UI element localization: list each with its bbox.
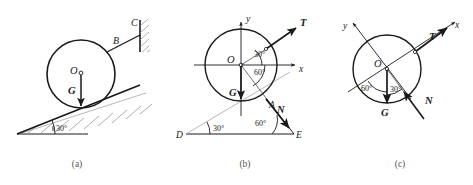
vertex-label-d-b: D: [175, 130, 183, 140]
incline-guide-line-a: [22, 93, 146, 133]
normal-label-n-c: N: [424, 95, 433, 106]
axis-label-y-c: y: [342, 21, 348, 31]
caption-a: (a): [72, 159, 83, 170]
tension-vector-b: [266, 28, 296, 49]
cord-label-b-a: B: [113, 35, 119, 46]
tension-label-t-c: T: [429, 31, 436, 42]
axis-label-x-c: x: [454, 20, 460, 30]
panel-c: O y x T G N 60° 30° (c): [342, 20, 460, 170]
angle-arc-30-a: [52, 120, 55, 134]
angle-label-60-c: 60°: [361, 84, 372, 93]
panel-a: O G B C 30° (a): [17, 17, 152, 170]
center-label-o-a: O: [70, 65, 78, 76]
caption-c: (c): [395, 159, 406, 170]
wall-hatching-a: [140, 19, 150, 52]
cord-a: [107, 35, 140, 52]
contact-point-label-a-b: A: [268, 100, 275, 110]
panel-b: O y x T G N A D E 30° 60° 30° 60° (b): [175, 14, 307, 170]
weight-label-g-a: G: [68, 85, 76, 96]
physics-figure: O G B C 30° (a): [0, 0, 473, 185]
incline-hatching-a: [28, 104, 152, 133]
normal-vector-c: [404, 92, 424, 119]
axis-label-y-b: y: [245, 14, 251, 24]
angle-label-30-c: 30°: [390, 85, 401, 94]
t-attachment-dot-c: [413, 50, 416, 53]
angle-label-30-top-b: 30°: [254, 50, 265, 59]
axis-label-x-b: x: [298, 64, 304, 74]
angle-arc-60-at-e-b: [272, 115, 277, 134]
normal-label-n-b: N: [276, 104, 285, 115]
weight-label-g-c: G: [381, 107, 389, 118]
center-dot-a: [79, 71, 83, 75]
weight-label-g-b: G: [229, 87, 237, 98]
figure-canvas: O G B C 30° (a): [0, 0, 473, 185]
center-label-o-c: O: [374, 58, 382, 69]
caption-b: (b): [239, 159, 250, 170]
incline-angle-label-a: 30°: [56, 124, 67, 133]
angle-arc-30-at-d-b: [207, 122, 210, 134]
angle-label-30-bottom-b: 30°: [213, 124, 224, 133]
incline-surface-a: [17, 85, 140, 134]
angle-label-60-bottom-b: 60°: [255, 119, 266, 128]
center-label-o-b: O: [227, 54, 235, 65]
axis-x-c: [348, 22, 455, 92]
wall-label-c-a: C: [131, 17, 138, 28]
tension-label-t-b: T: [300, 17, 307, 28]
vertex-label-e-b: E: [295, 130, 302, 140]
angle-label-60-top-b: 60°: [254, 68, 265, 77]
